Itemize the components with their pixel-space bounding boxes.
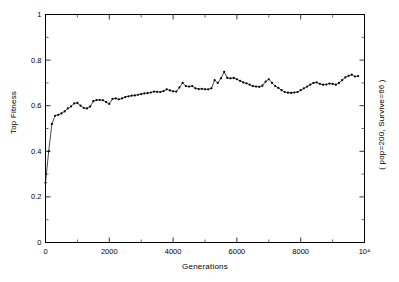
data-point: [76, 102, 78, 104]
data-point: [316, 81, 318, 83]
data-point: [312, 82, 314, 84]
data-point: [108, 103, 110, 105]
y-axis-title: Top Fitness: [9, 78, 18, 148]
data-point: [204, 88, 206, 90]
data-point: [73, 102, 75, 104]
data-point: [290, 92, 292, 94]
data-point: [121, 97, 123, 99]
data-point: [127, 95, 129, 97]
data-point: [347, 75, 349, 77]
data-point: [303, 87, 305, 89]
data-point: [265, 80, 267, 82]
data-point: [201, 88, 203, 90]
parameters-annotation: ( pop=200, Survive=66 ): [377, 60, 386, 190]
data-point: [198, 88, 200, 90]
x-tick-label: 2000: [101, 247, 118, 256]
data-point: [83, 107, 85, 109]
data-point: [64, 110, 66, 112]
data-point: [233, 77, 235, 79]
data-point: [153, 90, 155, 92]
data-point: [115, 97, 117, 99]
data-point: [57, 114, 59, 116]
data-point: [306, 85, 308, 87]
data-point: [175, 90, 177, 92]
data-point: [332, 83, 334, 85]
data-point: [140, 93, 142, 95]
data-point: [271, 82, 273, 84]
data-point: [162, 90, 164, 92]
data-point: [217, 82, 219, 84]
data-point: [258, 86, 260, 88]
data-point: [134, 94, 136, 96]
data-point: [102, 99, 104, 101]
data-point: [70, 105, 72, 107]
data-point: [229, 77, 231, 79]
data-point: [268, 78, 270, 80]
y-tick-label: 0.4: [31, 147, 41, 156]
data-point: [188, 85, 190, 87]
y-tick-labels: 00.20.40.60.81: [31, 10, 41, 247]
y-tick-label: 0.6: [31, 101, 41, 110]
data-point: [182, 82, 184, 84]
data-point: [169, 89, 171, 91]
data-point: [191, 85, 193, 87]
y-tick-label: 1: [37, 10, 41, 19]
minor-ticks: [46, 15, 365, 243]
data-point: [124, 96, 126, 98]
data-point: [99, 99, 101, 101]
data-point: [67, 107, 69, 109]
x-tick-label: 6000: [229, 247, 246, 256]
data-point: [252, 85, 254, 87]
data-point: [328, 82, 330, 84]
x-tick-label: 0: [43, 247, 47, 256]
data-point: [319, 83, 321, 85]
data-point: [51, 123, 53, 125]
data-point: [92, 100, 94, 102]
chart-canvas: 0200040006000800010⁴ 00.20.40.60.81: [0, 0, 399, 282]
data-point: [118, 98, 120, 100]
data-point: [86, 107, 88, 109]
data-point: [255, 85, 257, 87]
data-point: [239, 80, 241, 82]
data-point: [137, 94, 139, 96]
data-point: [223, 71, 225, 73]
data-point: [236, 78, 238, 80]
data-point: [156, 91, 158, 93]
x-tick-label: 10⁴: [359, 247, 371, 256]
data-point: [54, 115, 56, 117]
data-point: [150, 91, 152, 93]
data-point: [95, 99, 97, 101]
data-point: [325, 83, 327, 85]
data-point: [249, 84, 251, 86]
data-point: [159, 91, 161, 93]
data-point: [146, 92, 148, 94]
data-point: [194, 87, 196, 89]
data-point: [322, 84, 324, 86]
data-point: [143, 92, 145, 94]
data-point: [309, 84, 311, 86]
data-point: [242, 81, 244, 83]
data-point: [261, 85, 263, 87]
data-point: [111, 98, 113, 100]
data-point: [357, 75, 359, 77]
data-point: [178, 86, 180, 88]
fitness-chart-figure: 0200040006000800010⁴ 00.20.40.60.81 Top …: [0, 0, 399, 282]
data-point: [351, 74, 353, 76]
y-tick-label: 0: [37, 238, 41, 247]
data-point: [354, 75, 356, 77]
x-axis-ticks: [46, 15, 365, 243]
plot-frame: [46, 15, 365, 243]
data-point: [344, 76, 346, 78]
x-axis-title: Generations: [130, 262, 280, 271]
data-point: [245, 82, 247, 84]
x-tick-label: 4000: [165, 247, 182, 256]
data-point: [335, 84, 337, 86]
data-point: [44, 182, 46, 184]
data-point: [220, 77, 222, 79]
data-point: [207, 88, 209, 90]
data-point: [300, 89, 302, 91]
data-point: [105, 101, 107, 103]
data-point: [280, 89, 282, 91]
y-tick-label: 0.8: [31, 56, 41, 65]
y-tick-label: 0.2: [31, 192, 41, 201]
